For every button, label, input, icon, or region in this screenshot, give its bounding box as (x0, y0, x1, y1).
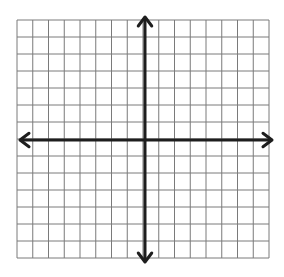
coordinate-plane (0, 0, 284, 277)
